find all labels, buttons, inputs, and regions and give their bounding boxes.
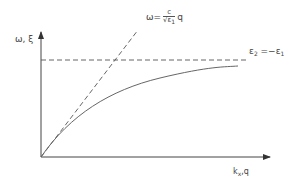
fraction: c√ε1 xyxy=(163,9,175,25)
dispersion-diagram xyxy=(0,0,298,179)
light-line-label: ω=c√ε1q xyxy=(146,9,183,25)
y-axis-label: ω, ξ xyxy=(15,34,33,44)
x-label-rest: ,q xyxy=(241,167,249,176)
dispersion-curve xyxy=(41,66,238,157)
fraction-denominator: √ε1 xyxy=(163,17,175,25)
asymptote-label: ε2 =−ε1 xyxy=(249,46,284,57)
x-axis-label: kx,q xyxy=(233,167,249,177)
light-line-rhs: q xyxy=(177,12,183,22)
den-sub: 1 xyxy=(171,18,175,25)
eps1-sub: 1 xyxy=(281,50,285,57)
light-line-lhs: ω= xyxy=(146,12,161,22)
equals-minus: =− xyxy=(258,46,276,56)
